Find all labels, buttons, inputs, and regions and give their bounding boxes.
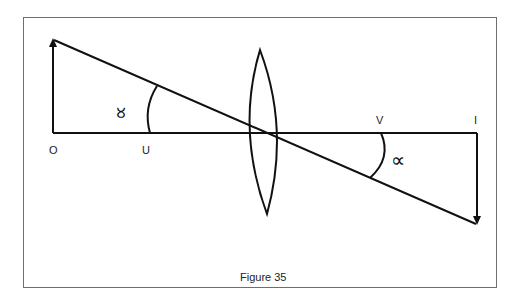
angle-arc-left <box>148 86 157 133</box>
image-arrow <box>473 133 481 225</box>
figure-caption: Figure 35 <box>240 271 286 283</box>
angle-symbol-left: ∝ <box>108 106 132 120</box>
label-v: V <box>376 114 384 126</box>
arrowhead-up-icon <box>49 38 57 47</box>
label-u: U <box>142 144 150 156</box>
lens-ray-diagram: ∝ ∝ O U V I Figure 35 <box>0 0 521 303</box>
label-i: I <box>474 114 477 126</box>
angle-symbol-right: ∝ <box>391 148 405 172</box>
object-arrow <box>49 38 57 133</box>
angle-arc-right <box>370 133 385 178</box>
label-o: O <box>49 144 58 156</box>
